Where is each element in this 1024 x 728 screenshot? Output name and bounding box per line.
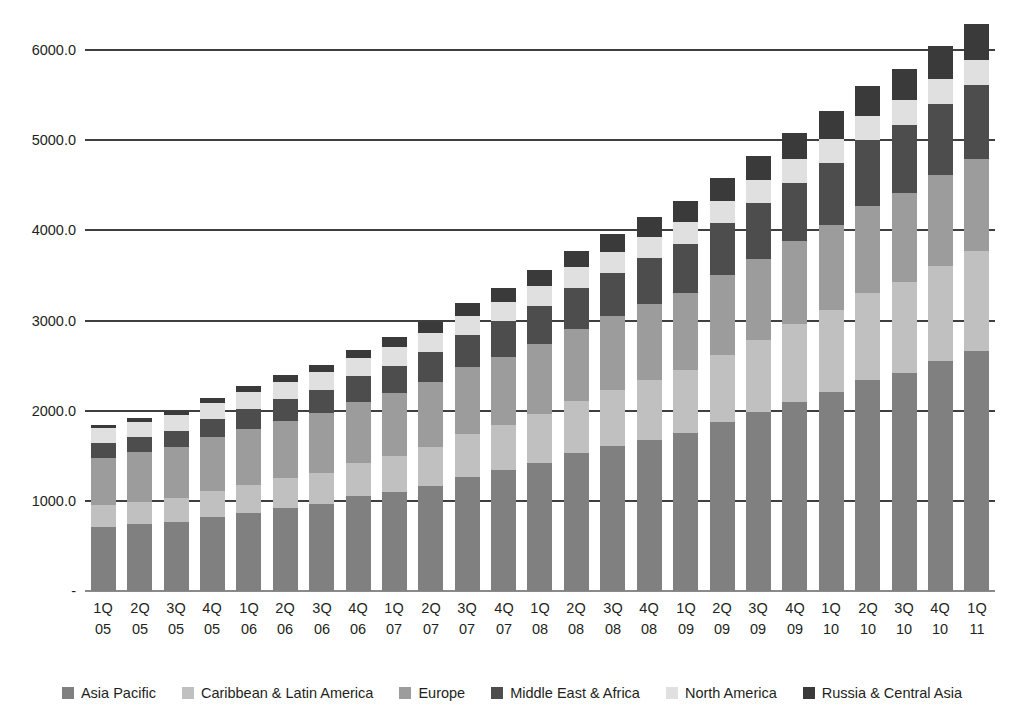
bar-segment-asia-pacific bbox=[673, 433, 698, 591]
bar-1q-09[interactable] bbox=[673, 201, 698, 591]
bar-segment-middle-east-africa bbox=[855, 140, 880, 206]
x-axis-tick-label: 3Q07 bbox=[449, 598, 485, 640]
bar-segment-asia-pacific bbox=[782, 402, 807, 591]
x-axis-tick-label: 1Q11 bbox=[959, 598, 995, 640]
y-axis-tick-label: 4000.0 bbox=[0, 222, 76, 238]
legend-swatch-icon bbox=[182, 687, 194, 699]
bar-3q-10[interactable] bbox=[892, 69, 917, 591]
bar-segment-russia-central-asia bbox=[637, 217, 662, 236]
bar-segment-europe bbox=[455, 367, 480, 434]
x-label-quarter: 3Q bbox=[886, 598, 922, 619]
bar-segment-europe bbox=[527, 344, 552, 414]
bar-segment-europe bbox=[782, 241, 807, 324]
bar-4q-06[interactable] bbox=[346, 350, 371, 591]
bar-1q-06[interactable] bbox=[236, 386, 261, 591]
bar-2q-08[interactable] bbox=[564, 251, 589, 591]
bar-segment-europe bbox=[164, 447, 189, 498]
bar-segment-russia-central-asia bbox=[382, 337, 407, 347]
bar-segment-middle-east-africa bbox=[564, 288, 589, 329]
legend-label: Russia & Central Asia bbox=[822, 685, 962, 701]
x-label-year: 09 bbox=[777, 619, 813, 640]
bar-segment-asia-pacific bbox=[236, 513, 261, 591]
x-axis-tick-label: 1Q05 bbox=[85, 598, 121, 640]
bar-segment-russia-central-asia bbox=[455, 303, 480, 316]
bar-segment-caribbean-latin-america bbox=[164, 498, 189, 522]
bar-3q-09[interactable] bbox=[746, 156, 771, 591]
x-axis-tick-label: 2Q09 bbox=[704, 598, 740, 640]
bar-1q-10[interactable] bbox=[819, 111, 844, 591]
bar-segment-asia-pacific bbox=[564, 453, 589, 591]
bar-segment-north-america bbox=[127, 422, 152, 437]
legend-item-middle-east-africa[interactable]: Middle East & Africa bbox=[491, 685, 640, 701]
bar-1q-08[interactable] bbox=[527, 270, 552, 591]
bar-3q-06[interactable] bbox=[309, 365, 334, 591]
bar-2q-05[interactable] bbox=[127, 418, 152, 591]
x-axis-tick-label: 4Q06 bbox=[340, 598, 376, 640]
x-axis: 1Q052Q053Q054Q051Q062Q063Q064Q061Q072Q07… bbox=[85, 598, 995, 654]
legend-item-russia-central-asia[interactable]: Russia & Central Asia bbox=[803, 685, 962, 701]
x-label-quarter: 4Q bbox=[340, 598, 376, 619]
x-axis-tick-label: 2Q10 bbox=[850, 598, 886, 640]
x-axis-tick-label: 1Q06 bbox=[231, 598, 267, 640]
bar-2q-10[interactable] bbox=[855, 86, 880, 591]
legend-label: Middle East & Africa bbox=[510, 685, 640, 701]
bar-segment-europe bbox=[236, 429, 261, 485]
bar-4q-09[interactable] bbox=[782, 133, 807, 591]
bar-segment-middle-east-africa bbox=[964, 85, 989, 159]
x-axis-tick-label: 4Q05 bbox=[194, 598, 230, 640]
bar-segment-north-america bbox=[236, 392, 261, 409]
bar-4q-05[interactable] bbox=[200, 398, 225, 591]
bar-segment-caribbean-latin-america bbox=[455, 434, 480, 476]
bar-4q-07[interactable] bbox=[491, 288, 516, 591]
legend-swatch-icon bbox=[803, 687, 815, 699]
legend-item-asia-pacific[interactable]: Asia Pacific bbox=[62, 685, 156, 701]
bar-3q-08[interactable] bbox=[600, 234, 625, 591]
bar-3q-07[interactable] bbox=[455, 303, 480, 591]
bar-4q-08[interactable] bbox=[637, 217, 662, 591]
x-label-year: 10 bbox=[886, 619, 922, 640]
bar-1q-11[interactable] bbox=[964, 24, 989, 591]
bar-segment-north-america bbox=[600, 252, 625, 273]
legend-item-north-america[interactable]: North America bbox=[666, 685, 777, 701]
bar-segment-europe bbox=[746, 259, 771, 340]
x-label-quarter: 3Q bbox=[158, 598, 194, 619]
bar-segment-caribbean-latin-america bbox=[91, 505, 116, 527]
bar-segment-north-america bbox=[273, 382, 298, 399]
x-axis-tick-label: 1Q07 bbox=[376, 598, 412, 640]
bar-segment-middle-east-africa bbox=[746, 203, 771, 259]
x-label-quarter: 1Q bbox=[959, 598, 995, 619]
x-label-year: 08 bbox=[522, 619, 558, 640]
x-axis-tick-label: 3Q05 bbox=[158, 598, 194, 640]
x-label-year: 09 bbox=[740, 619, 776, 640]
bar-segment-caribbean-latin-america bbox=[637, 380, 662, 440]
bar-2q-06[interactable] bbox=[273, 375, 298, 591]
legend-item-caribbean-latin-america[interactable]: Caribbean & Latin America bbox=[182, 685, 374, 701]
bar-2q-09[interactable] bbox=[710, 178, 735, 591]
bar-segment-asia-pacific bbox=[455, 477, 480, 592]
bar-segment-caribbean-latin-america bbox=[527, 414, 552, 463]
x-label-quarter: 3Q bbox=[304, 598, 340, 619]
bar-1q-05[interactable] bbox=[91, 425, 116, 591]
x-label-quarter: 1Q bbox=[376, 598, 412, 619]
bar-1q-07[interactable] bbox=[382, 337, 407, 591]
bar-2q-07[interactable] bbox=[418, 322, 443, 591]
legend-item-europe[interactable]: Europe bbox=[399, 685, 465, 701]
bar-segment-caribbean-latin-america bbox=[710, 355, 735, 423]
x-label-year: 08 bbox=[595, 619, 631, 640]
x-axis-tick-label: 3Q06 bbox=[304, 598, 340, 640]
bar-segment-asia-pacific bbox=[309, 504, 334, 591]
bar-segment-asia-pacific bbox=[164, 522, 189, 591]
x-label-quarter: 1Q bbox=[813, 598, 849, 619]
bar-segment-asia-pacific bbox=[928, 361, 953, 591]
bar-4q-10[interactable] bbox=[928, 46, 953, 591]
bar-segment-caribbean-latin-america bbox=[600, 390, 625, 446]
bar-segment-middle-east-africa bbox=[382, 366, 407, 393]
bar-segment-russia-central-asia bbox=[600, 234, 625, 252]
bar-3q-05[interactable] bbox=[164, 411, 189, 591]
bar-segment-middle-east-africa bbox=[710, 223, 735, 275]
bar-segment-caribbean-latin-america bbox=[782, 324, 807, 402]
bar-segment-russia-central-asia bbox=[892, 69, 917, 101]
bar-segment-north-america bbox=[164, 415, 189, 431]
y-axis-tick-label: 6000.0 bbox=[0, 42, 76, 58]
bar-segment-asia-pacific bbox=[746, 412, 771, 591]
